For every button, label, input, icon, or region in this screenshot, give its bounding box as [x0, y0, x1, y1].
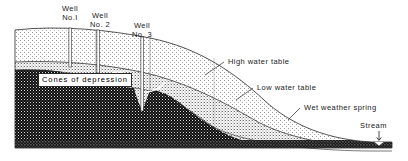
well-3-label: Well No. 3: [124, 21, 160, 39]
wet-weather-spring-leader: [288, 108, 300, 120]
well-3-shaft[interactable]: [141, 37, 143, 111]
bedrock-band: [15, 140, 392, 150]
wet-weather-spring-label: Wet weather spring: [304, 103, 377, 112]
groundwater-cross-section-figure: Well No.I Well No. 2 Well No. 3 Cones of…: [0, 0, 408, 161]
stream-arrow-icon: [377, 131, 382, 140]
well-3-label-line1: Well: [124, 21, 160, 30]
well-2-shaft[interactable]: [97, 30, 99, 73]
well-1-shaft[interactable]: [69, 28, 71, 67]
stream-label: Stream: [360, 121, 387, 130]
well-2-label-line2: No. 2: [82, 20, 118, 29]
well-2-label-line1: Well: [82, 11, 118, 20]
well-3-label-line2: No. 3: [124, 30, 160, 39]
low-water-table-label: Low water table: [257, 83, 316, 92]
cones-of-depression-label: Cones of depression: [38, 73, 132, 87]
well-2-label: Well No. 2: [82, 11, 118, 29]
high-water-table-label: High water table: [228, 57, 289, 66]
